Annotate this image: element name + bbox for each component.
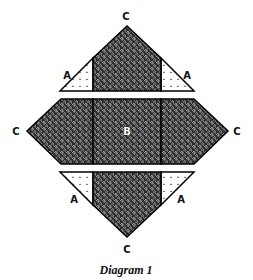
label-left-c: C — [12, 126, 19, 137]
label-center-b: B — [123, 126, 131, 137]
label-bottom-c: C — [123, 244, 130, 255]
label-right-c: C — [233, 126, 240, 137]
label-top-c: C — [122, 11, 129, 22]
bottom-center-piece — [93, 172, 161, 237]
label-top-right-a: A — [183, 70, 191, 81]
middle-left-piece — [27, 99, 93, 164]
top-center-piece — [93, 26, 161, 91]
bottom-block — [60, 172, 194, 237]
diagram-caption: Diagram 1 — [98, 263, 152, 277]
quilt-diagram: C A A C B C A A C Diagram 1 — [0, 0, 253, 280]
label-bottom-left-a: A — [70, 194, 78, 205]
middle-right-piece — [161, 99, 228, 164]
top-block — [60, 26, 194, 91]
label-top-left-a: A — [63, 70, 71, 81]
label-bottom-right-a: A — [177, 194, 185, 205]
